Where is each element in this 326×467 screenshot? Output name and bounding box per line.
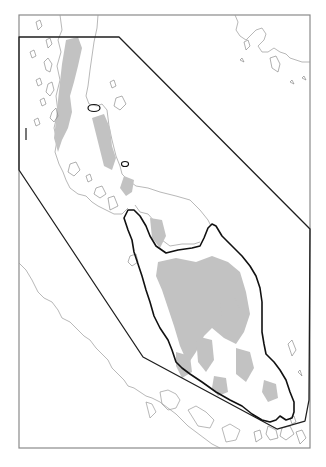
side-label-mark [25,128,27,140]
east-coast-islands [110,15,310,110]
lake-south [122,162,129,167]
highlands [54,37,278,402]
map-canvas [0,0,326,467]
west-islands [30,20,138,266]
